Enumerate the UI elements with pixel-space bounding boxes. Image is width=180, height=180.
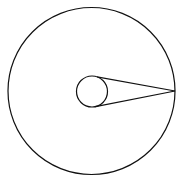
outer-circle: [8, 8, 175, 175]
tangent-line-upper: [97, 77, 175, 91]
inner-circle: [77, 76, 108, 107]
geometry-diagram: [0, 0, 180, 180]
